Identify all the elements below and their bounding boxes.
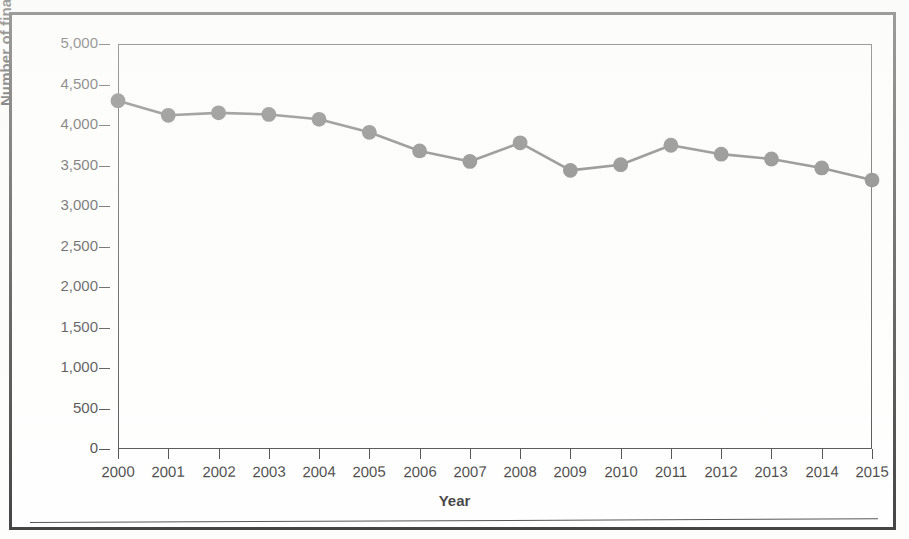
line-series-final-rules [118,44,872,449]
x-axis-tick-mark [420,449,421,459]
data-point-marker [714,147,729,162]
y-axis-tick-label: 2,000 [60,277,98,294]
x-axis-tick-label: 2012 [695,463,747,481]
x-axis-tick-label: 2007 [444,463,496,481]
y-axis-tick-mark [99,287,110,288]
x-axis-tick-mark [721,449,722,459]
y-axis-tick-label: 3,000 [60,196,98,213]
x-axis-tick-label: 2002 [192,463,244,481]
x-axis-tick-mark [621,449,622,459]
x-axis-tick-label: 2006 [393,463,445,481]
y-axis-tick-mark [99,368,110,369]
y-axis-tick-mark [99,125,110,126]
data-point-marker [513,135,528,150]
data-point-marker [412,144,427,159]
y-axis-tick-label: 1,000 [60,358,98,375]
y-axis-tick-mark [99,409,110,410]
x-axis-title: Year [0,492,909,509]
x-axis-tick-label: 2003 [243,463,295,481]
x-axis-tick-mark [520,449,521,459]
y-axis-tick-label: 1,500 [60,318,98,335]
y-axis-tick-mark [99,328,110,329]
x-axis-tick-label: 2004 [293,463,345,481]
x-axis-tick-mark [570,449,571,459]
data-point-marker [161,108,176,123]
data-point-marker [312,112,327,127]
x-axis-tick-mark [771,449,772,459]
x-axis-tick-mark [872,449,873,459]
x-axis-tick-label: 2001 [142,463,194,481]
x-axis-tick-mark [168,449,169,459]
data-point-marker [211,105,226,120]
data-point-marker [261,107,276,122]
y-axis-tick-label: 500 [73,399,98,416]
x-axis-tick-label: 2015 [846,463,898,481]
y-axis-tick-mark [99,247,110,248]
x-axis-tick-label: 2008 [494,463,546,481]
y-axis-tick-mark [99,166,110,167]
y-axis-tick-label: 5,000 [60,34,98,51]
x-axis-tick-mark [470,449,471,459]
data-point-marker [764,152,779,167]
x-axis-tick-mark [118,449,119,459]
x-axis-tick-label: 2005 [343,463,395,481]
x-axis-tick-label: 2011 [645,463,697,481]
x-axis-tick-mark [269,449,270,459]
x-axis-tick-mark [319,449,320,459]
data-point-marker [865,173,880,188]
data-point-marker [613,157,628,172]
x-axis-tick-label: 2009 [544,463,596,481]
series-markers [111,93,880,187]
data-point-marker [462,154,477,169]
y-axis-tick-label: 4,500 [60,75,98,92]
y-axis-title: Number of final rules [0,0,14,150]
x-axis-tick-mark [671,449,672,459]
data-point-marker [563,163,578,178]
y-axis-tick-mark [99,44,110,45]
y-axis-tick-label: 2,500 [60,237,98,254]
series-line-path [118,101,872,180]
y-axis-tick-mark [99,85,110,86]
y-axis-tick-label: 0 [90,439,98,456]
x-axis-tick-mark [219,449,220,459]
x-axis-tick-label: 2014 [796,463,848,481]
x-axis-tick-label: 2000 [92,463,144,481]
data-point-marker [664,138,679,153]
y-axis-tick-label: 4,000 [60,115,98,132]
x-axis-tick-label: 2010 [595,463,647,481]
x-axis-tick-mark [369,449,370,459]
figure-container: Number of final rules 05001,0001,5002,00… [0,0,909,539]
data-point-marker [111,93,126,108]
x-axis-tick-mark [822,449,823,459]
y-axis-tick-label: 3,500 [60,156,98,173]
y-axis-tick-mark [99,206,110,207]
data-point-marker [362,125,377,140]
x-axis-tick-label: 2013 [745,463,797,481]
data-point-marker [814,161,829,176]
y-axis-tick-mark [99,449,110,450]
